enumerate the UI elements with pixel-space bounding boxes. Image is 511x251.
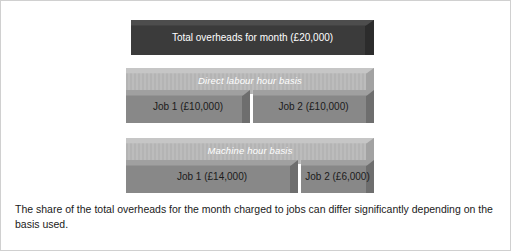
- job-block-2-machine-hour: Job 2 (£6,000): [301, 160, 374, 193]
- job-block-1-machine-hour-label: Job 1 (£14,000): [177, 172, 247, 182]
- job-block-2-machine-hour-label: Job 2 (£6,000): [305, 172, 370, 182]
- total-overheads-label: Total overheads for month (£20,000): [172, 33, 333, 43]
- basis-band-direct-labour-label: Direct labour hour basis: [198, 76, 302, 86]
- figure-caption: The share of the total overheads for the…: [15, 202, 499, 232]
- basis-band-machine-hour-label: Machine hour basis: [207, 146, 292, 156]
- job-block-2-direct-labour-label: Job 2 (£10,000): [278, 102, 348, 112]
- allocation-diagram: Total overheads for month (£20,000) Dire…: [1, 1, 511, 197]
- job-block-1-direct-labour-label: Job 1 (£10,000): [153, 102, 223, 112]
- job-block-1-direct-labour: Job 1 (£10,000): [126, 90, 250, 123]
- total-overheads-block: Total overheads for month (£20,000): [131, 20, 374, 55]
- job-block-2-direct-labour: Job 2 (£10,000): [253, 90, 374, 123]
- overhead-allocation-figure: Total overheads for month (£20,000) Dire…: [0, 0, 511, 251]
- job-block-1-machine-hour: Job 1 (£14,000): [126, 160, 298, 193]
